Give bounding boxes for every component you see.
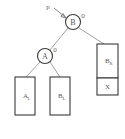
subtree-box-br-subscript: R: [110, 61, 113, 66]
edge-a-to-al: [26, 62, 40, 77]
pointer-arrow: [54, 8, 66, 18]
subtree-box-br-group: B R: [97, 44, 118, 78]
node-b-balance-label: 0: [81, 12, 85, 20]
tree-edges: [26, 28, 104, 77]
subtree-box-x-label: X: [105, 83, 110, 91]
node-a-balance-label: 0: [53, 46, 57, 54]
edge-a-to-bl: [50, 62, 60, 77]
node-b-group: B 0: [66, 12, 86, 30]
tree-diagram-figure: p A L B L B R X B 0 A: [0, 0, 125, 139]
subtree-box-al-group: A L: [15, 77, 35, 115]
node-b-label: B: [70, 18, 75, 27]
subtree-box-bl-subscript: L: [63, 96, 66, 101]
node-a-group: A 0: [38, 46, 58, 64]
subtree-box-x-group: X: [97, 78, 118, 95]
edge-b-to-br: [79, 28, 104, 44]
node-a-label: A: [42, 52, 48, 61]
pointer-arrow-line: [54, 8, 65, 17]
pointer-label: p: [46, 3, 50, 11]
subtree-box-bl-group: B L: [50, 77, 70, 115]
subtree-box-al-subscript: L: [28, 96, 31, 101]
